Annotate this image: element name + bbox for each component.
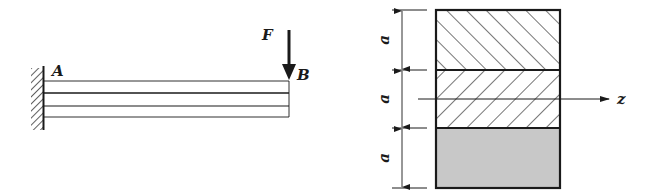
z-axis-label: z — [616, 90, 626, 108]
fixed-support-icon — [31, 66, 44, 130]
section-layer-top — [436, 10, 560, 70]
section-layer-bottom — [436, 128, 560, 188]
cross-section-figure: a a a z — [375, 10, 626, 188]
cantilever-beam-figure: A F B — [31, 26, 310, 130]
label-a: A — [50, 62, 64, 80]
label-b: B — [296, 66, 310, 84]
dimension-label-bottom: a — [375, 153, 393, 163]
dimension-label-top: a — [375, 35, 393, 45]
diagram-canvas: A F B a a a z — [0, 0, 651, 194]
label-f: F — [261, 26, 274, 44]
force-arrow-icon — [282, 30, 296, 80]
beam-body — [44, 81, 289, 117]
dimension-label-middle: a — [375, 94, 393, 104]
